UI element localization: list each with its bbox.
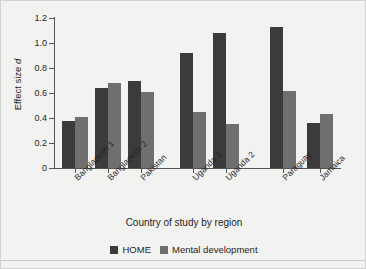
bar-mental[interactable] (283, 91, 296, 169)
bar-home[interactable] (307, 123, 320, 168)
bottom-divider (1, 260, 366, 261)
legend-label: HOME (122, 244, 151, 255)
y-axis-tick (49, 168, 54, 169)
chart-figure: Effect size d 00.20.40.60.81.01.2 Countr… (0, 0, 366, 269)
y-axis-tick-label: 1.0 (34, 39, 47, 48)
y-axis-tick (49, 143, 54, 144)
y-axis-tick-label: 0 (42, 164, 47, 173)
y-axis-tick-label: 0.4 (34, 114, 47, 123)
y-axis-tick-label: 1.2 (34, 14, 47, 23)
bar-group (62, 18, 88, 168)
bar-group (180, 18, 206, 168)
bar-group (213, 18, 239, 168)
bar-mental[interactable] (108, 83, 121, 168)
legend-swatch-icon (110, 246, 118, 254)
bar-group (270, 18, 296, 168)
y-axis-tick (49, 18, 54, 19)
y-axis-tick-labels: 00.20.40.60.81.01.2 (1, 1, 47, 269)
x-axis-title: Country of study by region (1, 217, 366, 228)
y-axis-tick (49, 93, 54, 94)
legend-swatch-icon (160, 246, 168, 254)
chart-legend: HOMEMental development (1, 244, 366, 255)
y-axis-tick-label: 0.8 (34, 64, 47, 73)
legend-label: Mental development (172, 244, 258, 255)
bar-mental[interactable] (141, 92, 154, 168)
bar-home[interactable] (213, 33, 226, 168)
legend-item[interactable]: Mental development (160, 244, 258, 255)
bar-home[interactable] (180, 53, 193, 168)
legend-item[interactable]: HOME (110, 244, 151, 255)
y-axis-tick (49, 118, 54, 119)
bar-home[interactable] (62, 121, 75, 169)
y-axis-tick (49, 43, 54, 44)
y-axis-tick (49, 68, 54, 69)
plot-area (55, 18, 340, 168)
bar-group (307, 18, 333, 168)
y-axis-tick-label: 0.6 (34, 89, 47, 98)
bar-home[interactable] (270, 27, 283, 168)
y-axis-tick-label: 0.2 (34, 139, 47, 148)
